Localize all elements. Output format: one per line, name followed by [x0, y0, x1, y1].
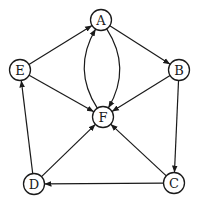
edge-a-to-f — [107, 29, 120, 108]
node-b: B — [169, 60, 190, 81]
node-a: A — [91, 10, 112, 31]
nodes-layer: ABCDEF — [10, 10, 190, 195]
node-label: B — [174, 63, 184, 78]
edge-b-to-c — [174, 80, 178, 172]
edges-layer — [21, 26, 178, 184]
edge-f-to-a — [84, 29, 97, 108]
edge-e-to-f — [29, 75, 94, 112]
node-f: F — [93, 107, 114, 128]
node-label: E — [15, 63, 25, 78]
node-d: D — [24, 174, 45, 195]
node-label: A — [95, 13, 106, 28]
node-label: D — [29, 177, 39, 192]
edge-c-to-d — [44, 183, 163, 184]
edge-b-to-f — [112, 76, 170, 112]
node-label: C — [169, 176, 179, 191]
edge-d-to-e — [21, 80, 32, 173]
node-e: E — [10, 60, 31, 81]
edge-d-to-f — [42, 124, 96, 176]
edge-e-to-a — [29, 26, 92, 65]
graph-canvas: ABCDEF — [0, 0, 204, 206]
node-c: C — [164, 173, 185, 194]
node-label: F — [98, 110, 107, 125]
edge-c-to-f — [111, 124, 167, 176]
